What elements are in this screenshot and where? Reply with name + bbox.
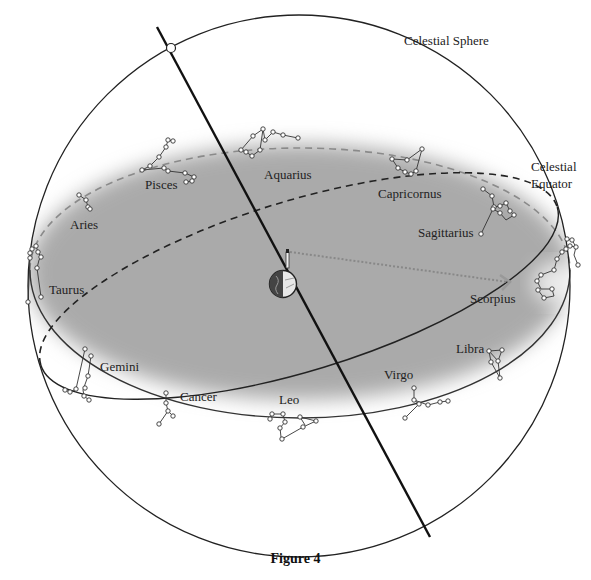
label-taurus: Taurus xyxy=(49,283,84,296)
label-celestial-equator-line2: Equator xyxy=(531,177,572,190)
label-cancer: Cancer xyxy=(180,390,217,403)
label-scorpius: Scorpius xyxy=(470,292,516,305)
label-aquarius: Aquarius xyxy=(264,168,312,181)
label-celestial-equator-line1: Celestial xyxy=(531,160,577,173)
label-libra: Libra xyxy=(456,342,484,355)
label-pisces: Pisces xyxy=(145,178,178,191)
label-celestial-sphere: Celestial Sphere xyxy=(404,34,489,47)
label-capricornus: Capricornus xyxy=(378,187,442,200)
label-leo: Leo xyxy=(279,393,299,406)
label-gemini: Gemini xyxy=(100,360,139,373)
label-sagittarius: Sagittarius xyxy=(418,226,474,239)
label-virgo: Virgo xyxy=(384,368,413,381)
celestial-sphere-diagram xyxy=(0,0,591,580)
north-celestial-pole xyxy=(167,44,176,53)
figure-caption: Figure 4 xyxy=(0,551,591,567)
label-aries: Aries xyxy=(70,218,98,231)
